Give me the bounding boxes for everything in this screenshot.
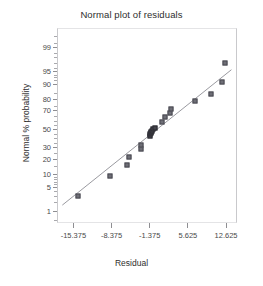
y-axis-tick-label: 10 [43, 170, 51, 179]
y-axis-tick-label: 99 [43, 43, 51, 52]
y-axis-tick-label: 1 [47, 207, 51, 216]
data-point [139, 142, 144, 147]
y-axis-tick: 95 [0, 71, 57, 72]
chart-title: Normal plot of residuals [0, 9, 263, 20]
y-axis-tick: 30 [0, 147, 57, 148]
y-axis-tick-label: 50 [43, 125, 51, 134]
x-axis-tick-label: -8.375 [101, 231, 122, 240]
data-point [108, 173, 113, 178]
x-axis-tick-label: 12.625 [215, 231, 238, 240]
normal-probability-plot: Normal plot of residuals Normal % probab… [0, 0, 263, 286]
x-axis-tick-label: -15.375 [61, 231, 86, 240]
y-axis-tick: 5 [0, 187, 57, 188]
data-point [159, 120, 164, 125]
y-axis-tick: 20 [0, 159, 57, 160]
y-axis-tick-label: 20 [43, 155, 51, 164]
x-axis-tick-mark [73, 223, 74, 228]
y-axis-tick-label: 5 [47, 183, 51, 192]
y-axis-tick: 80 [0, 99, 57, 100]
x-axis-tick-label: 5.625 [179, 231, 198, 240]
x-axis-tick-label: -1.375 [139, 231, 160, 240]
x-axis-tick-mark [187, 223, 188, 228]
y-axis-tick: 90 [0, 84, 57, 85]
data-point [76, 193, 81, 198]
data-point [220, 80, 225, 85]
y-axis-tick: 1 [0, 211, 57, 212]
y-axis-tick: 10 [0, 174, 57, 175]
y-axis-tick-label: 30 [43, 143, 51, 152]
data-point [223, 61, 228, 66]
data-point [152, 125, 157, 130]
data-point [124, 162, 129, 167]
y-axis-tick: 99 [0, 47, 57, 48]
data-point [208, 92, 213, 97]
x-axis-label: Residual [0, 258, 263, 268]
data-point [192, 99, 197, 104]
x-axis-tick-mark [149, 223, 150, 228]
plot-area [57, 28, 237, 223]
y-axis-tick-label: 70 [43, 106, 51, 115]
data-point [126, 154, 131, 159]
x-axis-tick-mark [226, 223, 227, 228]
y-axis-tick-label: 90 [43, 80, 51, 89]
reference-line [57, 28, 237, 223]
data-point [168, 106, 173, 111]
x-axis-tick-mark [111, 223, 112, 228]
y-axis-tick-label: 95 [43, 67, 51, 76]
y-axis-tick-label: 80 [43, 95, 51, 104]
y-axis-tick: 50 [0, 129, 57, 130]
y-axis-tick: 70 [0, 110, 57, 111]
